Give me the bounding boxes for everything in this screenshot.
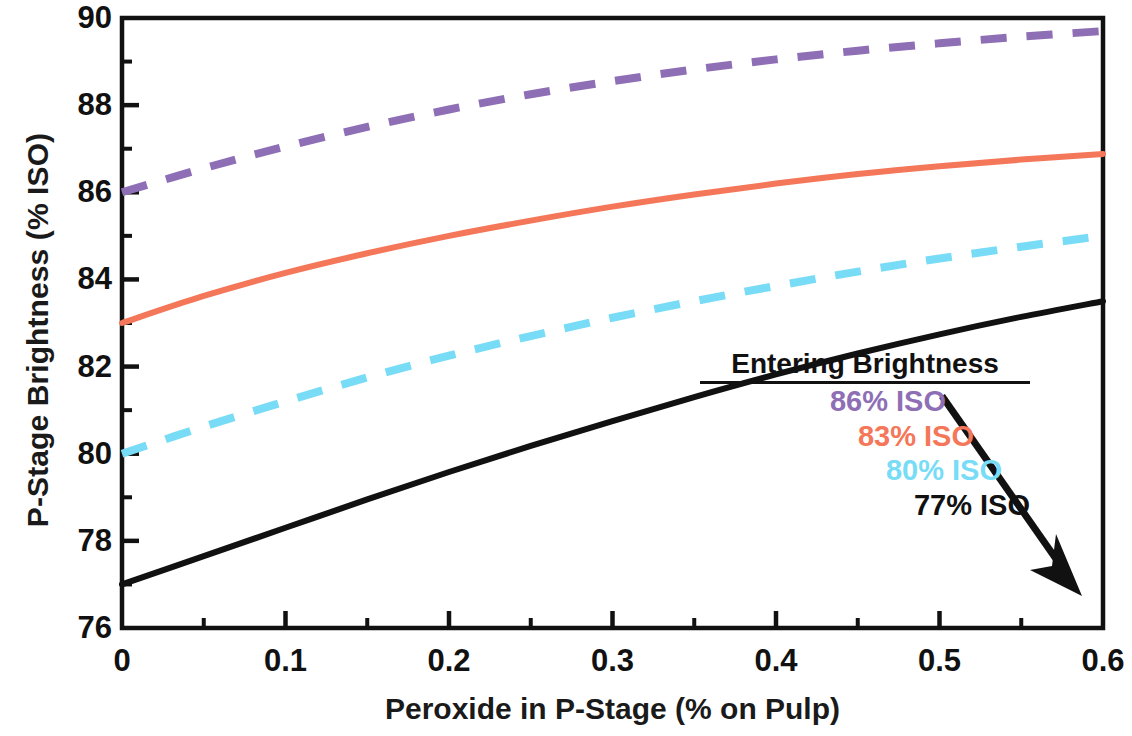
x-axis-tick-label: 0.6 [1081,645,1124,676]
x-axis-tick-label: 0.2 [427,645,470,676]
x-axis-tick-label: 0.3 [591,645,634,676]
legend-entries: 86% ISO83% ISO80% ISO77% ISO [700,384,1030,522]
x-axis-tick-labels: 00.10.20.30.40.50.6 [0,645,1132,689]
legend: Entering Brightness 86% ISO83% ISO80% IS… [700,348,1030,522]
legend-entry-83: 83% ISO [700,419,1030,454]
x-axis-title: Peroxide in P-Stage (% on Pulp) [122,692,1103,726]
x-axis-tick-label: 0.1 [264,645,307,676]
x-axis-tick-label: 0.5 [918,645,961,676]
x-axis-tick-label: 0 [113,645,130,676]
legend-entry-77: 77% ISO [700,488,1030,523]
series-line-83 [122,154,1103,323]
annotation-arrow-head [1030,534,1082,596]
legend-entry-86: 86% ISO [700,384,1030,419]
legend-entry-80: 80% ISO [700,453,1030,488]
chart-container: P-Stage Brightness (% ISO) 7678808284868… [0,0,1132,736]
legend-title: Entering Brightness [700,348,1030,384]
x-axis-tick-label: 0.4 [754,645,797,676]
series-line-86 [122,31,1103,192]
